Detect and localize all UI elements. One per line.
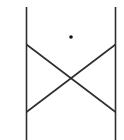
diagram-background [0, 0, 124, 140]
cross-brace-diagram [0, 0, 124, 140]
point-marker [69, 35, 73, 39]
